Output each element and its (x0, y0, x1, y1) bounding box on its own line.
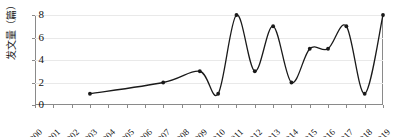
x-tick-mark (273, 105, 274, 108)
x-tick-mark (365, 105, 366, 108)
x-tick-mark (255, 105, 256, 108)
x-tick-mark (346, 105, 347, 108)
x-tick-mark (145, 105, 146, 108)
data-point-marker (290, 81, 294, 85)
x-tick-mark (35, 105, 36, 108)
x-tick-mark (236, 105, 237, 108)
data-point-marker (161, 81, 165, 85)
data-point-marker (381, 13, 385, 17)
data-point-marker (235, 13, 239, 17)
series-line (90, 15, 383, 96)
x-tick-mark (218, 105, 219, 108)
plot-area: 02468 2000200120022003200420052006200720… (35, 15, 383, 105)
x-tick-mark (127, 105, 128, 108)
x-tick-mark (108, 105, 109, 108)
x-tick-label: 2000 (16, 127, 44, 137)
data-point-marker (363, 92, 367, 96)
y-axis-title: 发文量（篇） (3, 0, 18, 66)
x-tick-mark (163, 105, 164, 108)
data-point-marker (216, 92, 220, 96)
data-point-marker (308, 47, 312, 51)
x-tick-mark (291, 105, 292, 108)
data-point-marker (326, 47, 330, 51)
data-point-marker (271, 24, 275, 28)
x-tick-mark (182, 105, 183, 108)
x-tick-mark (72, 105, 73, 108)
x-tick-mark (90, 105, 91, 108)
x-tick-mark (200, 105, 201, 108)
publication-count-line-chart: 发文量（篇） 02468 200020012002200320042005200… (0, 0, 396, 137)
data-point-markers (88, 13, 385, 96)
data-point-marker (253, 69, 257, 73)
x-tick-mark (310, 105, 311, 108)
data-series-curve (35, 15, 383, 105)
x-tick-mark (328, 105, 329, 108)
x-tick-mark (383, 105, 384, 108)
x-tick-mark (53, 105, 54, 108)
data-point-marker (198, 69, 202, 73)
data-point-marker (344, 24, 348, 28)
data-point-marker (88, 92, 92, 96)
